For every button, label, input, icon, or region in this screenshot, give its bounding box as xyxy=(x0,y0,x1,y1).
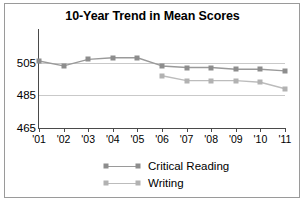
data-point-marker xyxy=(86,57,91,62)
legend-item-critical-reading: Critical Reading xyxy=(104,158,274,175)
data-point-marker xyxy=(135,55,140,60)
chart-figure: 10-Year Trend in Mean Scores 465485505 '… xyxy=(0,0,305,203)
chart-legend: Critical Reading Writing xyxy=(104,158,274,192)
data-point-marker xyxy=(184,78,189,83)
data-point-marker xyxy=(283,68,288,73)
data-point-marker xyxy=(258,80,263,85)
legend-label: Writing xyxy=(148,175,184,192)
data-point-marker xyxy=(110,55,115,60)
legend-marker-icon xyxy=(136,164,141,169)
data-point-marker xyxy=(37,59,42,64)
line-writing xyxy=(162,76,285,89)
data-point-marker xyxy=(233,78,238,83)
data-point-marker xyxy=(209,65,214,70)
legend-marker-icon xyxy=(104,181,109,186)
data-point-marker xyxy=(233,67,238,72)
data-point-marker xyxy=(160,63,165,68)
data-point-marker xyxy=(61,63,66,68)
data-point-marker xyxy=(258,67,263,72)
data-point-marker xyxy=(209,78,214,83)
legend-item-writing: Writing xyxy=(104,175,274,192)
legend-marker-icon xyxy=(104,164,109,169)
data-point-marker xyxy=(184,65,189,70)
data-point-marker xyxy=(283,86,288,91)
legend-marker-icon xyxy=(136,181,141,186)
data-point-marker xyxy=(160,73,165,78)
legend-label: Critical Reading xyxy=(148,158,229,175)
